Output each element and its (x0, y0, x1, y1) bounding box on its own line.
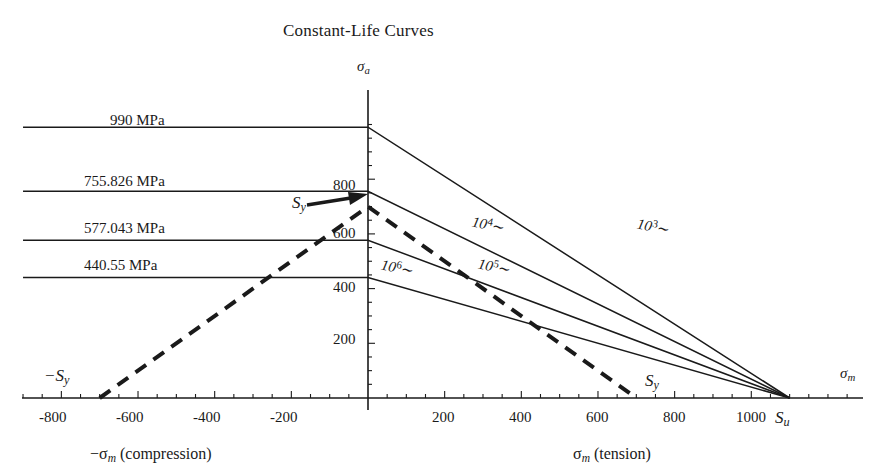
sy-subscript-tension: y (654, 378, 659, 392)
y-tick-label-200: 200 (333, 332, 356, 347)
page-title: Constant-Life Curves (283, 22, 434, 39)
curve-base-4: 10 (471, 214, 489, 233)
x-axis-caption-compression: −σm (compression) (90, 446, 212, 465)
curve-10^6~ (23, 278, 790, 398)
stress-label-440: 440.55 MPa (84, 258, 157, 273)
stress-label-990: 990 MPa (110, 113, 165, 128)
x-tick-label-600: 600 (586, 410, 609, 425)
su-marker: Su (775, 409, 790, 429)
x-axis-caption-tension: σm (tension) (573, 446, 651, 465)
tension-sigma: σ (573, 445, 582, 462)
su-symbol: S (775, 408, 784, 427)
constant-life-curves-figure: Constant-Life Curves σa σm 990 MPa 755.8… (0, 0, 885, 471)
x-tick-label-1000: 1000 (736, 410, 766, 425)
y-tick-label-400: 400 (333, 280, 356, 295)
compression-text: (compression) (116, 445, 212, 462)
x-tick-label-minus200: -200 (270, 410, 298, 425)
compression-subscript: m (108, 452, 116, 464)
sy-symbol-axis: S (292, 193, 301, 212)
tension-text: (tension) (590, 445, 651, 462)
compression-sigma: −σ (90, 445, 108, 462)
x-axis-label: σm (840, 366, 855, 383)
y-tick-label-800: 800 (333, 178, 356, 193)
neg-sy-marker: −Sy (44, 367, 69, 387)
curve-base-3: 10 (636, 216, 654, 235)
neg-sy-symbol: −S (44, 366, 64, 385)
su-subscript: u (784, 415, 790, 429)
y-tick-label-600: 600 (333, 226, 356, 241)
x-axis-subscript: m (847, 371, 855, 383)
x-tick-label-minus800: -800 (39, 410, 67, 425)
curve-base-5: 10 (477, 256, 495, 275)
sy-symbol-tension: S (645, 371, 654, 390)
sy-marker-axis: Sy (292, 194, 306, 214)
x-tick-label-minus400: -400 (193, 410, 221, 425)
y-axis-label: σa (357, 59, 370, 76)
x-tick-label-400: 400 (509, 410, 532, 425)
x-tick-label-minus600: -600 (116, 410, 144, 425)
sy-marker-tension: Sy (645, 372, 659, 392)
neg-sy-subscript: y (64, 373, 69, 387)
curve-base-6: 10 (380, 257, 398, 276)
y-axis-subscript: a (364, 64, 369, 76)
stress-label-577: 577.043 MPa (84, 221, 165, 236)
x-tick-label-800: 800 (663, 410, 686, 425)
x-tick-label-200: 200 (432, 410, 455, 425)
axes-group (22, 90, 863, 410)
tension-subscript: m (582, 452, 590, 464)
sy-subscript-axis: y (301, 200, 306, 214)
sy-pointer-arrow (307, 192, 368, 205)
stress-label-755: 755.826 MPa (84, 174, 165, 189)
